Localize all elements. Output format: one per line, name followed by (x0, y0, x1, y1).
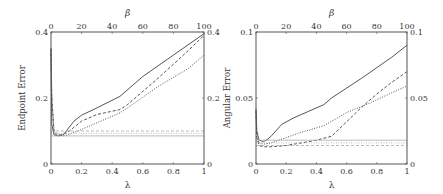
y-tick-label: 0 (248, 160, 253, 169)
y2-tick-label: 0.2 (207, 94, 220, 103)
y2-tick-label: 0 (410, 160, 415, 169)
y-axis-label: Endpoint Error (17, 64, 27, 130)
y-axis-label: Angular Error (222, 67, 232, 130)
series-dotted (256, 86, 407, 144)
x2-tick-label: 40 (107, 22, 117, 31)
y2-tick-label: 0 (207, 160, 212, 169)
x2-tick-label: 20 (281, 22, 291, 31)
y-tick-label: 0.4 (35, 28, 48, 37)
x-tick-label: 0.2 (280, 167, 293, 176)
x-tick-label: 0.4 (106, 167, 119, 176)
series-dashed (256, 72, 407, 147)
x2-axis-label: β (124, 8, 130, 18)
x-tick-label: 0 (48, 167, 53, 176)
y2-tick-label: 0.1 (410, 28, 423, 37)
series-group (256, 45, 407, 147)
x-axis-label: λ (125, 180, 131, 190)
series-dotted (51, 52, 204, 136)
x-tick-label: 0.6 (340, 167, 353, 176)
x2-tick-label: 60 (138, 22, 148, 31)
series-solid (256, 45, 407, 141)
series-solid (51, 34, 204, 136)
x2-tick-label: 80 (372, 22, 382, 31)
y-tick-label: 0.1 (240, 28, 253, 37)
x-tick-label: 0.2 (75, 167, 88, 176)
y-tick-label: 0 (43, 160, 48, 169)
axes-frame (51, 32, 204, 164)
x2-tick-label: 0 (48, 22, 53, 31)
x2-tick-label: 20 (77, 22, 87, 31)
chart-angular-error: 00.20.40.60.8102040608010000.050.100.050… (222, 8, 428, 190)
x2-tick-label: 0 (253, 22, 258, 31)
x-tick-label: 1 (201, 167, 206, 176)
x-tick-label: 0 (253, 167, 258, 176)
x-tick-label: 0.4 (310, 167, 323, 176)
x-tick-label: 0.8 (370, 167, 383, 176)
x2-tick-label: 80 (168, 22, 178, 31)
chart-endpoint-error: 00.20.40.60.8102040608010000.20.400.20.4… (17, 8, 220, 190)
figure: 00.20.40.60.8102040608010000.20.400.20.4… (0, 0, 443, 194)
y-tick-label: 0.05 (235, 94, 253, 103)
x2-tick-label: 40 (311, 22, 321, 31)
x-axis-label: λ (329, 180, 335, 190)
y2-tick-label: 0.4 (207, 28, 220, 37)
x-tick-label: 0.6 (136, 167, 149, 176)
x2-tick-label: 60 (342, 22, 352, 31)
series-group (51, 34, 204, 136)
charts-canvas: 00.20.40.60.8102040608010000.20.400.20.4… (0, 0, 443, 194)
y-tick-label: 0.2 (35, 94, 48, 103)
x2-axis-label: β (328, 8, 334, 18)
x-tick-label: 1 (404, 167, 409, 176)
y2-tick-label: 0.05 (410, 94, 428, 103)
x-tick-label: 0.8 (167, 167, 180, 176)
